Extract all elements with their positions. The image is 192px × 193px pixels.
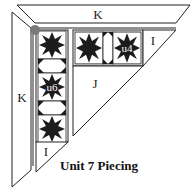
top-k-label: K [93,7,103,22]
diagram-title: Unit 7 Piecing [60,158,138,173]
corner-dot [30,25,40,35]
right-i-triangle: I [143,30,176,66]
horizontal-star-row: u4 [73,30,143,66]
center-j-label: J [92,76,97,91]
center-j-triangle: J [73,66,143,136]
top-k-band: K [17,5,190,23]
right-i-label: I [151,33,155,48]
left-k-band: K [12,12,31,187]
bottom-i-label: I [44,144,48,159]
horizontal-unit-label: u4 [122,42,134,54]
vertical-star-column: u6 [36,30,68,143]
vertical-unit-label: u6 [47,81,59,93]
unit-7-piecing-diagram: K K u6 I [0,0,192,193]
left-k-label: K [17,90,27,105]
